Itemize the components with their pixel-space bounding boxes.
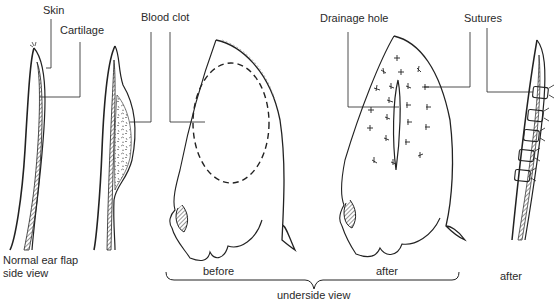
label-cartilage: Cartilage	[60, 24, 104, 37]
caption-after-underside: after	[376, 265, 398, 278]
caption-before: before	[203, 265, 234, 278]
label-sutures: Sutures	[464, 12, 502, 25]
caption-underside-view: underside view	[277, 289, 350, 302]
hematoma-side-view	[94, 46, 135, 250]
caption-normal-line2: side view	[3, 267, 48, 280]
underside-after-ear	[340, 36, 465, 256]
caption-after-side: after	[500, 270, 522, 283]
caption-normal-line1: Normal ear flap	[3, 254, 78, 267]
label-skin: Skin	[43, 4, 64, 17]
label-drainage-hole: Drainage hole	[320, 12, 389, 25]
sutured-side-view	[512, 40, 554, 240]
ear-hematoma-diagram: Skin Cartilage Blood clot Drainage hole …	[0, 0, 558, 302]
diagram-artwork	[0, 0, 558, 302]
normal-ear-flap-side	[10, 42, 45, 250]
underside-before-ear	[170, 40, 295, 260]
leader-lines-after	[348, 28, 533, 107]
label-blood-clot: Blood clot	[141, 11, 189, 24]
